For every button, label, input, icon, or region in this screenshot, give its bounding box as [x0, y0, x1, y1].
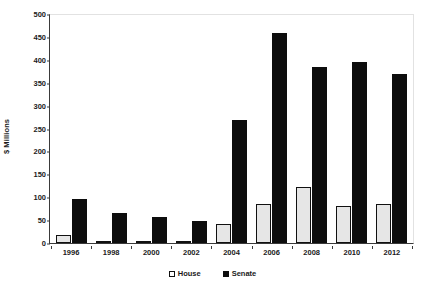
legend-label: House: [178, 270, 201, 278]
x-axis-tick-label: 2000: [131, 246, 171, 262]
bar-senate-1998: [112, 213, 127, 243]
y-axis-tick-mark: [47, 244, 50, 245]
x-axis-tick-label: 2002: [171, 246, 211, 262]
x-axis-tick-label: 2010: [332, 246, 372, 262]
x-axis-tick-label: 2012: [372, 246, 412, 262]
x-axis-tick-mark: [372, 246, 373, 249]
x-axis-tick-mark: [51, 246, 52, 249]
bar-house-1998: [96, 241, 111, 243]
bar-senate-2008: [312, 67, 327, 243]
x-axis-labels: 199619982000200220042006200820102012: [49, 246, 414, 262]
bar-senate-2004: [232, 120, 247, 243]
bar-group: [212, 15, 252, 243]
y-axis-title-label: $ Millions: [3, 118, 12, 153]
bar-group: [371, 15, 411, 243]
x-axis-tick-label: 1996: [51, 246, 91, 262]
bar-senate-1996: [72, 199, 87, 243]
bar-group: [331, 15, 371, 243]
chart-legend: HouseSenate: [0, 270, 425, 278]
bar-house-2002: [176, 241, 191, 243]
bar-group: [132, 15, 172, 243]
x-axis-tick-label: 2004: [211, 246, 251, 262]
bars-container: [50, 15, 413, 243]
y-axis-title: $ Millions: [0, 96, 14, 176]
x-axis-tick-mark: [171, 246, 172, 249]
x-axis-tick-mark: [332, 246, 333, 249]
bar-chart: $ Millions 05010015020025030035040045050…: [0, 0, 425, 292]
open-square-icon: [169, 271, 175, 277]
x-axis-tick-mark: [211, 246, 212, 249]
legend-item-senate[interactable]: Senate: [223, 270, 257, 278]
x-axis-tick-label: 1998: [91, 246, 131, 262]
plot-area: 050100150200250300350400450500: [49, 14, 414, 244]
bar-senate-2006: [272, 33, 287, 243]
bar-group: [52, 15, 92, 243]
x-axis-tick-mark: [292, 246, 293, 249]
bar-house-2010: [336, 206, 351, 243]
x-axis-tick-mark: [91, 246, 92, 249]
legend-item-house[interactable]: House: [169, 270, 201, 278]
bar-group: [172, 15, 212, 243]
legend-label: Senate: [232, 270, 257, 278]
bar-group: [251, 15, 291, 243]
bar-house-2000: [136, 241, 151, 243]
x-axis-tick-mark: [412, 246, 413, 249]
x-axis-tick-label: 2008: [292, 246, 332, 262]
bar-house-2004: [216, 224, 231, 243]
filled-square-icon: [223, 271, 229, 277]
bar-house-2012: [376, 204, 391, 243]
bar-senate-2010: [352, 62, 367, 243]
bar-senate-2000: [152, 217, 167, 243]
x-axis-tick-label: 2006: [252, 246, 292, 262]
bar-house-2008: [296, 187, 311, 243]
bar-senate-2012: [392, 74, 407, 243]
bar-senate-2002: [192, 221, 207, 243]
x-axis-tick-mark: [131, 246, 132, 249]
x-axis-tick-mark: [252, 246, 253, 249]
bar-group: [92, 15, 132, 243]
bar-house-1996: [56, 235, 71, 243]
bar-house-2006: [256, 204, 271, 243]
bar-group: [291, 15, 331, 243]
